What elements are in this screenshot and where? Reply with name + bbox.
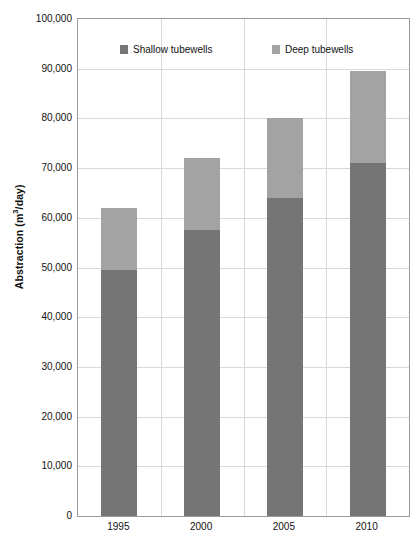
- chart-legend: Shallow tubewellsDeep tubewells: [77, 44, 408, 62]
- plot-area: [77, 18, 410, 517]
- x-axis-tick-label: 1995: [107, 521, 129, 532]
- legend-swatch-icon: [120, 45, 128, 54]
- gridline-vertical: [326, 19, 327, 516]
- x-axis-tick-label: 2005: [273, 521, 295, 532]
- gridline-vertical: [244, 19, 245, 516]
- y-axis-tick-label: 100,000: [2, 13, 72, 24]
- bar-column[interactable]: [184, 158, 220, 516]
- bar-segment[interactable]: [350, 71, 386, 163]
- bar-segment[interactable]: [101, 208, 137, 270]
- y-axis-tick-label: 90,000: [2, 62, 72, 73]
- y-axis-tick-label: 40,000: [2, 311, 72, 322]
- x-axis-tick-label: 2000: [190, 521, 212, 532]
- bar-column[interactable]: [267, 118, 303, 516]
- y-axis-tick-label: 20,000: [2, 410, 72, 421]
- y-axis-tick-label: 60,000: [2, 211, 72, 222]
- bar-segment[interactable]: [350, 163, 386, 516]
- y-axis-tick-label: 70,000: [2, 162, 72, 173]
- y-axis-tick-label: 80,000: [2, 112, 72, 123]
- legend-label: Deep tubewells: [285, 44, 353, 55]
- x-axis-tick-label: 2010: [356, 521, 378, 532]
- stacked-bar-chart: Abstraction (m3/day) 010,00020,00030,000…: [0, 0, 420, 539]
- gridline-vertical: [161, 19, 162, 516]
- y-axis-tick-labels: 010,00020,00030,00040,00050,00060,00070,…: [0, 0, 72, 539]
- bar-column[interactable]: [350, 71, 386, 516]
- bar-segment[interactable]: [267, 118, 303, 198]
- legend-swatch-icon: [272, 45, 280, 54]
- y-axis-tick-label: 50,000: [2, 261, 72, 272]
- y-axis-tick-label: 10,000: [2, 460, 72, 471]
- bar-segment[interactable]: [101, 270, 137, 516]
- legend-entry[interactable]: Deep tubewells: [272, 44, 353, 55]
- y-axis-tick-label: 30,000: [2, 360, 72, 371]
- bar-column[interactable]: [101, 208, 137, 516]
- legend-entry[interactable]: Shallow tubewells: [120, 44, 213, 55]
- y-axis-tick-label: 0: [2, 510, 72, 521]
- bar-segment[interactable]: [184, 158, 220, 230]
- bar-segment[interactable]: [184, 230, 220, 516]
- bar-segment[interactable]: [267, 198, 303, 516]
- legend-label: Shallow tubewells: [133, 44, 213, 55]
